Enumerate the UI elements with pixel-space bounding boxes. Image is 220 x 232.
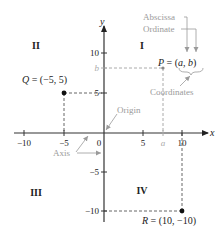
y-tick-label-neg10: −10 <box>85 206 100 216</box>
p-guide-lines <box>104 68 163 133</box>
y-tick-label-10: 10 <box>90 48 100 58</box>
y-tick-label-b: b <box>95 63 100 73</box>
point-r-label: R = (10, −10) <box>141 215 196 227</box>
quadrant-i-label: I <box>140 40 144 51</box>
coordinates-annotation: Coordinates <box>150 87 194 97</box>
quadrant-iii-label: III <box>30 187 42 198</box>
axis-arrow-to-x <box>76 136 88 152</box>
origin-annotation: Origin <box>117 105 141 115</box>
x-tick-label-5: 5 <box>141 138 146 148</box>
origin-zero-label: 0 <box>97 138 102 148</box>
point-p-label: P = (a, b) <box>157 57 196 69</box>
origin-arrow <box>106 114 117 130</box>
x-axis-label: x <box>209 127 215 138</box>
abscissa-arrow <box>184 17 187 52</box>
point-q <box>62 91 67 96</box>
point-q-label: Q = (−5, 5) <box>22 74 67 86</box>
y-axis-label: y <box>99 16 105 27</box>
quadrant-ii-label: II <box>32 40 40 51</box>
ordinate-annotation: Ordinate <box>143 24 175 34</box>
ordinate-arrow <box>181 29 196 52</box>
x-tick-label-neg10: −10 <box>17 138 32 148</box>
abscissa-annotation: Abscissa <box>143 12 175 22</box>
y-tick-label-5: 5 <box>95 88 100 98</box>
x-tick-label-neg5: −5 <box>59 138 69 148</box>
y-tick-label-neg5: −5 <box>89 167 99 177</box>
coordinate-plane-figure: x y −10 −5 0 5 10 a 10 5 −5 −10 b II I I… <box>0 0 220 232</box>
x-tick-label-10: 10 <box>178 138 188 148</box>
coordinates-arrow <box>180 76 190 86</box>
x-tick-label-a: a <box>161 138 166 148</box>
point-r <box>180 209 185 214</box>
axis-annotation: Axis <box>53 148 71 158</box>
coordinates-brace <box>179 68 203 75</box>
quadrant-iv-label: IV <box>136 185 148 196</box>
